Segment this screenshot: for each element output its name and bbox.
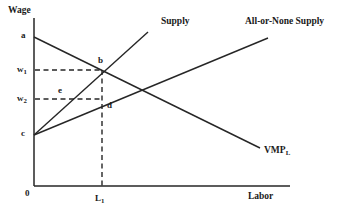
y-axis-label: Wage (8, 6, 31, 16)
y-tick-w1-sub: 1 (24, 68, 27, 75)
y-tick-w2-base: w (17, 93, 24, 103)
chart-canvas (0, 0, 347, 213)
x-tick-l1: L1 (95, 194, 104, 203)
point-label-d: d (107, 101, 112, 110)
x-axis-label: Labor (248, 192, 273, 202)
point-label-e: e (58, 86, 62, 95)
y-tick-w1: w1 (17, 65, 27, 74)
origin-label: 0 (25, 189, 30, 198)
all-or-none-supply-curve (34, 38, 268, 135)
point-label-c: c (21, 129, 25, 138)
y-tick-w2-sub: 2 (24, 97, 27, 104)
curves-group (34, 32, 268, 148)
axes-group (34, 18, 290, 186)
curve-label-vmpl: VMPL (264, 146, 290, 156)
curve-label-vmpl-sub: L (286, 149, 291, 156)
y-tick-w2: w2 (17, 94, 27, 103)
economics-diagram: Wage Labor 0 w1 w2 L1 a b c d e Supply A… (0, 0, 347, 213)
curve-label-supply: Supply (161, 17, 190, 27)
x-tick-l1-sub: 1 (101, 197, 104, 204)
vmpl-curve (34, 37, 260, 148)
supply-curve (34, 32, 148, 135)
point-label-b: b (98, 56, 103, 65)
curve-label-vmpl-base: VMP (264, 145, 286, 155)
y-tick-w1-base: w (17, 64, 24, 74)
reference-lines-group (35, 70, 102, 186)
point-label-a: a (21, 31, 26, 40)
curve-label-all-or-none-supply: All-or-None Supply (245, 17, 324, 27)
